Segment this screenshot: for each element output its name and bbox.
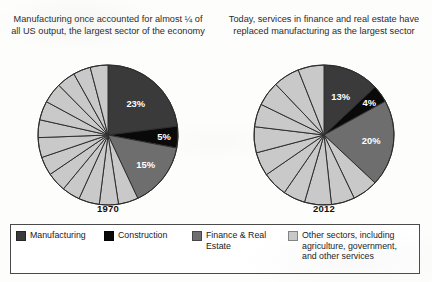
cropped-header-text: [6, 0, 126, 7]
pie-chart-1970: 23%5%15%: [33, 59, 183, 209]
chart-panels: Manufacturing once accounted for almost …: [0, 7, 432, 220]
legend-swatch-other-sectors-icon: [288, 231, 298, 241]
legend-swatch-construction-icon: [104, 231, 114, 241]
legend-item-other-sectors: Other sectors, including agriculture, go…: [288, 230, 412, 269]
pie-slice-label: 15%: [136, 159, 155, 170]
chart-panel-2012: Today, services in finance and real esta…: [216, 7, 432, 220]
panel-title-2012: Today, services in finance and real esta…: [224, 14, 424, 37]
chart-panel-1970: Manufacturing once accounted for almost …: [0, 7, 216, 220]
year-label-2012: 2012: [216, 203, 432, 214]
pie-chart-2012-container: 13%4%20%: [216, 59, 432, 209]
pie-chart-1970-container: 23%5%15%: [0, 59, 216, 209]
legend-label-finance-real-estate: Finance & Real Estate: [206, 230, 288, 251]
legend-item-manufacturing: Manufacturing: [16, 230, 104, 269]
legend-swatch-manufacturing-icon: [16, 231, 26, 241]
pie-slice-label: 23%: [126, 98, 145, 109]
pie-slice-label: 5%: [157, 131, 171, 142]
legend-item-finance-real-estate: Finance & Real Estate: [192, 230, 288, 269]
year-label-1970: 1970: [0, 203, 216, 214]
pie-slice-label: 13%: [331, 91, 350, 102]
pie-slice-label: 20%: [362, 135, 381, 146]
legend-label-manufacturing: Manufacturing: [30, 230, 86, 241]
legend-label-other-sectors: Other sectors, including agriculture, go…: [302, 230, 412, 262]
panel-title-1970: Manufacturing once accounted for almost …: [8, 14, 208, 37]
legend-label-construction: Construction: [118, 230, 167, 241]
legend-item-construction: Construction: [104, 230, 192, 269]
legend-swatch-finance-real-estate-icon: [192, 231, 202, 241]
pie-chart-2012: 13%4%20%: [249, 59, 399, 209]
pie-slice-label: 4%: [363, 97, 377, 108]
legend: Manufacturing Construction Finance & Rea…: [10, 224, 420, 274]
